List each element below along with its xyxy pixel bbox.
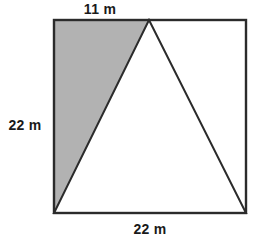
bottom-dimension-label: 22 m (124, 222, 176, 236)
left-dimension-label: 22 m (2, 118, 48, 132)
top-dimension-label: 11 m (74, 2, 126, 16)
geometry-figure: 11 m 22 m 22 m (0, 0, 256, 250)
